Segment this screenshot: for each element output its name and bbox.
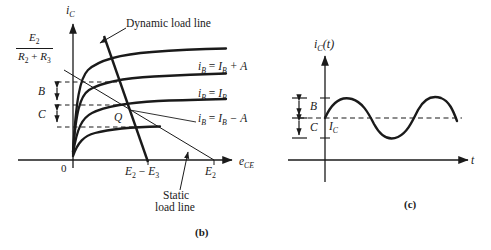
figure-container: iC E2 R2 + R3 Dynamic load line B C Q iB… xyxy=(0,0,491,250)
static-load-line-label-line1: Static xyxy=(163,190,189,202)
fraction-numerator: E2 xyxy=(16,31,53,48)
static-load-line xyxy=(64,70,214,160)
panel-c-axes xyxy=(288,56,468,182)
bracket-label-c-c: C xyxy=(310,122,318,134)
static-load-line-label-line2: load line xyxy=(155,202,195,214)
x-axis-label-c: t xyxy=(471,155,474,167)
static-load-line-leader xyxy=(180,152,188,190)
panel-c-caption: (c) xyxy=(404,199,416,210)
bracket-label-b-c: B xyxy=(310,101,317,113)
x-axis-label-b: eCE xyxy=(239,156,254,170)
x-tick-label-e2-minus-e3: E2 − E3 xyxy=(125,166,159,180)
origin-label-b: 0 xyxy=(61,163,67,174)
bracket-label-b: B xyxy=(38,86,45,98)
dynamic-load-line-leader xyxy=(100,28,126,43)
fraction-denominator: R2 + R3 xyxy=(16,48,53,66)
saturation-current-label: E2 R2 + R3 xyxy=(16,31,53,66)
q-point-label: Q xyxy=(114,112,122,124)
panel-b-caption: (b) xyxy=(195,227,208,238)
dynamic-load-line-label: Dynamic load line xyxy=(126,18,211,30)
bracket-label-c: C xyxy=(38,109,46,121)
y-axis-label-b: iC xyxy=(66,4,75,20)
y-axis-label-c: iC(t) xyxy=(314,38,334,54)
curve-label-ib-plus-a: iB = IB + A xyxy=(198,61,247,75)
quiescent-current-label: IC xyxy=(329,121,338,135)
curve-label-ib: iB = IB xyxy=(198,88,227,102)
curve-ib-lowest xyxy=(73,127,160,157)
curve-label-ib-minus-a: iB = IB − A xyxy=(198,113,247,127)
amplitude-bracket-c-panel xyxy=(292,98,307,138)
x-tick-label-e2: E2 xyxy=(205,166,216,180)
